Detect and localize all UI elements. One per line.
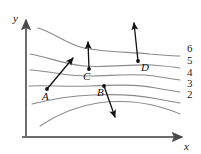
point-label-A: A: [41, 90, 49, 102]
point-label-B: B: [97, 86, 104, 98]
point-label-D: D: [140, 61, 149, 73]
y-axis-label: y: [12, 12, 18, 24]
vector-A: [47, 58, 73, 89]
axis-labels: y x: [12, 12, 189, 152]
point-dot-D: [136, 59, 140, 63]
contour-label-2: 2: [187, 88, 193, 100]
contour-figure: A B C D 6 5 4 3 2 y x: [0, 0, 201, 154]
x-axis-label: x: [183, 140, 189, 152]
contour-curves: [29, 28, 180, 126]
contour-level-labels: 6 5 4 3 2: [187, 42, 193, 100]
axes-group: [22, 20, 182, 137]
contour-label-5: 5: [187, 54, 193, 66]
vector-C: [88, 42, 89, 69]
vector-D: [134, 23, 138, 61]
contour-curve-5: [30, 54, 180, 68]
contour-curve-6: [38, 28, 180, 56]
contour-curve-bottom: [40, 102, 180, 126]
figure-canvas: A B C D 6 5 4 3 2 y x: [0, 0, 201, 154]
point-label-C: C: [83, 70, 91, 82]
contour-label-6: 6: [187, 42, 193, 54]
gradient-vectors: [47, 23, 138, 117]
contour-curve-4: [30, 70, 180, 80]
